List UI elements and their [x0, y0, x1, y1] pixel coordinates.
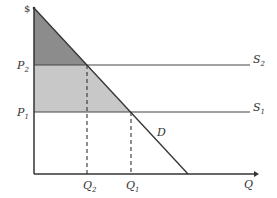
supply-label-s2: S2 — [253, 53, 266, 68]
quantity-label-q2: Q2 — [83, 179, 97, 194]
x-axis-arrow-icon — [254, 171, 259, 177]
price-label-p1: P1 — [16, 106, 29, 121]
price-label-p2: P2 — [16, 59, 29, 74]
quantity-label-q1: Q1 — [126, 179, 140, 194]
supply-demand-diagram: $ P2 P1 S2 S1 D Q2 Q1 Q — [0, 0, 277, 198]
supply-label-s1: S1 — [253, 101, 265, 116]
y-axis-label: $ — [24, 3, 30, 14]
surplus-change-region — [34, 65, 131, 112]
demand-label: D — [156, 126, 166, 139]
x-axis-label: Q — [244, 178, 253, 191]
